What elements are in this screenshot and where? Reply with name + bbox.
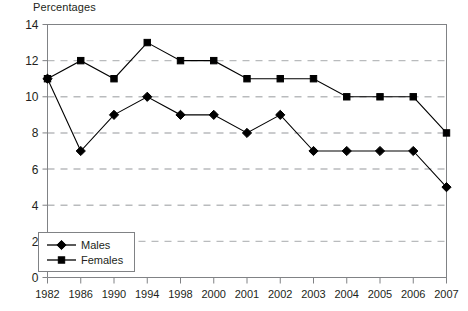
y-axis-tick-label: 0: [32, 271, 39, 285]
chart-legend: MalesFemales: [39, 233, 135, 272]
data-point-marker-diamond: [176, 110, 185, 119]
x-axis-tick-label: 1990: [102, 288, 126, 300]
data-point-marker-square: [111, 76, 117, 82]
data-point-marker-square: [144, 39, 150, 45]
legend-item-label: Females: [81, 254, 124, 266]
x-axis-labels-group: 1982198619901994199820002001200220032004…: [35, 288, 458, 300]
x-axis-tick-label: 2007: [434, 288, 458, 300]
x-axis-tick-label: 2006: [401, 288, 425, 300]
data-point-marker-diamond: [375, 146, 384, 155]
data-point-marker-square: [244, 76, 250, 82]
x-axis-tick-label: 2005: [368, 288, 392, 300]
data-point-marker-square: [344, 94, 350, 100]
data-point-marker-square: [310, 76, 316, 82]
data-point-marker-square: [78, 57, 84, 63]
x-axis-tick-label: 2002: [268, 288, 292, 300]
y-axis-tick-label: 2: [32, 235, 39, 249]
data-point-marker-square: [377, 94, 383, 100]
x-axis-tick-label: 1986: [69, 288, 93, 300]
y-axis-tick-label: 10: [25, 90, 39, 104]
x-axis-tick-label: 1998: [168, 288, 192, 300]
data-point-marker-square: [44, 76, 50, 82]
x-axis-tick-label: 2003: [301, 288, 325, 300]
data-point-marker-square: [410, 94, 416, 100]
line-chart: Percentages 02468101214 1982198619901994…: [0, 0, 468, 311]
legend-item-label: Males: [81, 239, 111, 251]
y-axis-tick-label: 12: [25, 54, 39, 68]
data-point-marker-diamond: [342, 146, 351, 155]
x-axis-tick-label: 2000: [202, 288, 226, 300]
y-axis-tick-label: 4: [32, 199, 39, 213]
x-axis-tick-label: 2001: [235, 288, 259, 300]
data-point-marker-square: [177, 57, 183, 63]
x-axis-tick-label: 1994: [135, 288, 159, 300]
y-axis-tick-label: 14: [25, 18, 39, 32]
y-axis-tick-label: 6: [32, 163, 39, 177]
series-females: [44, 39, 449, 136]
x-axis-tick-label: 2004: [335, 288, 359, 300]
y-axis-labels-group: 02468101214: [25, 18, 39, 285]
series-line: [48, 43, 447, 133]
data-point-marker-square: [277, 76, 283, 82]
data-point-marker-square: [58, 257, 64, 263]
x-axis-tick-label: 1982: [35, 288, 59, 300]
data-point-marker-diamond: [209, 110, 218, 119]
data-point-marker-diamond: [143, 92, 152, 101]
data-point-marker-square: [211, 57, 217, 63]
data-point-marker-square: [443, 130, 449, 136]
y-axis-tick-label: 8: [32, 126, 39, 140]
data-point-marker-diamond: [242, 128, 251, 137]
chart-plot-area: 02468101214 1982198619901994199820002001…: [0, 0, 468, 311]
x-axis-ticks-group: [48, 278, 447, 284]
